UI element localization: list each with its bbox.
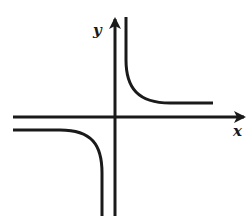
hyperbola-graph: y x [0,0,246,219]
y-axis-label: y [92,21,103,39]
x-axis-label: x [232,122,243,140]
lower-left-branch [13,130,102,216]
upper-right-branch [126,17,213,103]
